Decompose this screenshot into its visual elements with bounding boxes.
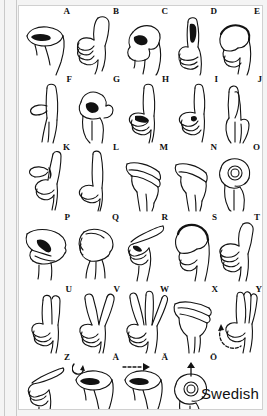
hand-sign-p-icon — [23, 218, 71, 282]
letter-cell-x[interactable]: X — [171, 286, 219, 356]
letter-label: Z — [64, 353, 70, 362]
letter-cell-m[interactable]: M — [121, 144, 169, 214]
hand-sign-b-icon — [72, 12, 120, 76]
hand-sign-k-icon — [23, 148, 71, 212]
hand-sign-a-umlaut-icon — [121, 358, 169, 410]
hand-sign-o-icon — [213, 148, 261, 212]
hand-sign-n-icon — [170, 148, 218, 212]
letter-label: Ä — [162, 353, 169, 362]
letter-label: T — [254, 213, 260, 222]
scan-sheet: A — [0, 0, 267, 416]
hand-sign-s-icon — [170, 218, 218, 282]
letter-cell-s[interactable]: S — [170, 214, 218, 284]
letter-cell-b[interactable]: B — [72, 8, 120, 78]
letter-label: C — [162, 7, 169, 16]
hand-sign-u-icon — [25, 290, 73, 354]
letter-label: R — [162, 213, 169, 222]
hand-sign-m-icon — [121, 148, 169, 212]
letter-cell-q[interactable]: Q — [72, 214, 120, 284]
hand-sign-e-icon — [213, 12, 261, 76]
letter-label: P — [65, 213, 71, 222]
letter-cell-a-ring[interactable]: Å — [72, 354, 120, 410]
letter-cell-t[interactable]: T — [213, 214, 261, 284]
hand-sign-t-icon — [213, 218, 261, 282]
letter-label: O — [253, 143, 260, 152]
letter-cell-a-umlaut[interactable]: Ä — [121, 354, 169, 410]
chart-caption: Swedish — [201, 385, 259, 402]
letter-cell-h[interactable]: H — [122, 76, 170, 146]
letter-cell-y[interactable]: Y — [215, 286, 263, 356]
letter-cell-w[interactable]: W — [122, 286, 170, 356]
letter-cell-n[interactable]: N — [170, 144, 218, 214]
letter-cell-g[interactable]: G — [73, 76, 121, 146]
letter-cell-o[interactable]: O — [213, 144, 261, 214]
hand-sign-d-icon — [170, 12, 218, 76]
hand-sign-r-icon — [121, 218, 169, 282]
hand-sign-j-icon — [215, 80, 263, 144]
letter-cell-v[interactable]: V — [73, 286, 121, 356]
letter-cell-l[interactable]: L — [72, 144, 120, 214]
letter-label: B — [113, 7, 119, 16]
letter-label: H — [162, 75, 169, 84]
chart-row: K L — [19, 144, 262, 214]
letter-label: K — [63, 143, 70, 152]
chart-row: F G — [19, 76, 262, 146]
letter-label: V — [114, 285, 121, 294]
letter-cell-i[interactable]: I — [171, 76, 219, 146]
letter-label: L — [113, 143, 119, 152]
hand-sign-c-icon — [121, 12, 169, 76]
chart-row: P — [19, 214, 262, 284]
chart-row: Z Å — [19, 354, 262, 410]
letter-label: Q — [112, 213, 119, 222]
letter-label: G — [113, 75, 120, 84]
letter-cell-f[interactable]: F — [25, 76, 73, 146]
letter-label: E — [254, 7, 260, 16]
alphabet-chart-page: A — [18, 5, 263, 410]
hand-sign-f-icon — [25, 80, 73, 144]
hand-sign-a-ring-icon — [72, 358, 120, 410]
chart-row: U — [19, 286, 262, 356]
hand-sign-w-icon — [122, 290, 170, 354]
letter-cell-d[interactable]: D — [170, 8, 218, 78]
letter-cell-p[interactable]: P — [23, 214, 71, 284]
letter-label: Y — [256, 285, 263, 294]
letter-cell-u[interactable]: U — [25, 286, 73, 356]
letter-label: J — [258, 75, 263, 84]
hand-sign-q-icon — [72, 218, 120, 282]
hand-sign-a-icon — [23, 12, 71, 76]
hand-sign-g-icon — [73, 80, 121, 144]
letter-label: U — [66, 285, 73, 294]
page-edge-line-outer — [4, 0, 5, 416]
hand-sign-o-umlaut-icon — [170, 358, 218, 410]
letter-label: F — [67, 75, 73, 84]
hand-sign-v-icon — [73, 290, 121, 354]
letter-cell-c[interactable]: C — [121, 8, 169, 78]
letter-label: W — [160, 285, 169, 294]
hand-sign-y-icon — [215, 290, 263, 354]
chart-row: A — [19, 8, 262, 78]
hand-sign-l-icon — [72, 148, 120, 212]
letter-label: Å — [113, 353, 120, 362]
letter-cell-z[interactable]: Z — [23, 354, 71, 410]
letter-cell-e[interactable]: E — [213, 8, 261, 78]
hand-sign-h-icon — [122, 80, 170, 144]
letter-cell-k[interactable]: K — [23, 144, 71, 214]
letter-cell-r[interactable]: R — [121, 214, 169, 284]
letter-label: A — [64, 7, 71, 16]
hand-sign-x-icon — [171, 290, 219, 354]
page-edge-line-inner — [16, 0, 17, 416]
letter-cell-a[interactable]: A — [23, 8, 71, 78]
letter-label: M — [160, 143, 169, 152]
letter-cell-j[interactable]: J — [215, 76, 263, 146]
hand-sign-z-icon — [23, 358, 71, 410]
hand-sign-i-icon — [171, 80, 219, 144]
letter-label: Ö — [210, 353, 217, 362]
